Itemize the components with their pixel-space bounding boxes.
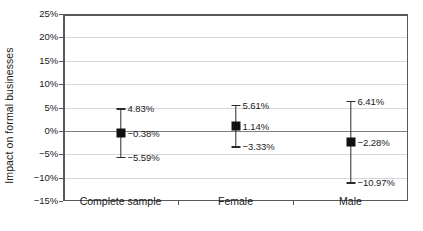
plot-border-top (63, 14, 408, 16)
y-tick-mark (59, 154, 63, 155)
y-tick-label: −5% (18, 148, 58, 159)
y-tick-label: −15% (18, 195, 58, 206)
upper-value-label: 5.61% (243, 99, 270, 110)
point-value-label: −2.28% (358, 136, 390, 147)
y-axis-tick-labels: 25%20%15%10%5%0%−5%−10%−15% (12, 0, 58, 231)
upper-value-label: 4.83% (128, 103, 155, 114)
lower-value-label: −3.33% (243, 141, 275, 152)
gridline--10 (63, 178, 408, 179)
y-tick-label: 20% (18, 31, 58, 42)
error-bar-cap-lower (231, 146, 240, 147)
point-value-label: 1.14% (243, 120, 270, 131)
upper-value-label: 6.41% (358, 95, 385, 106)
gridline-15 (63, 61, 408, 62)
y-tick-label: −10% (18, 172, 58, 183)
y-tick-mark (59, 14, 63, 15)
plot-area: 4.83%−0.38%−5.59%5.61%1.14%−3.33%6.41%−2… (63, 14, 408, 201)
error-bar-cap-upper (231, 105, 240, 106)
x-category-label: Female (218, 195, 253, 207)
error-bar-cap-upper (116, 108, 125, 109)
y-tick-mark (59, 61, 63, 62)
x-category-label: Complete sample (80, 195, 162, 207)
chart-container: Impact on formal businesses 25%20%15%10%… (0, 0, 423, 231)
gridline--5 (63, 154, 408, 155)
y-axis-line (63, 14, 65, 201)
y-tick-mark (59, 178, 63, 179)
x-category-label: Male (339, 195, 362, 207)
y-tick-mark (59, 131, 63, 132)
y-tick-mark (59, 108, 63, 109)
point-value-label: −0.38% (128, 127, 160, 138)
y-tick-label: 25% (18, 8, 58, 19)
plot-border-right (407, 14, 409, 201)
y-tick-label: 15% (18, 55, 58, 66)
y-tick-label: 5% (18, 102, 58, 113)
data-point-marker[interactable] (231, 121, 240, 130)
x-axis-tick (178, 201, 179, 205)
data-point-marker[interactable] (346, 137, 355, 146)
error-bar-cap-upper (346, 101, 355, 102)
y-tick-mark (59, 84, 63, 85)
error-bar-cap-lower (116, 157, 125, 158)
y-tick-mark (59, 37, 63, 38)
y-tick-label: 0% (18, 125, 58, 136)
y-tick-mark (59, 201, 63, 202)
gridline-10 (63, 84, 408, 85)
x-axis-tick (293, 201, 294, 205)
y-tick-label: 10% (18, 78, 58, 89)
error-bar-cap-lower (346, 182, 355, 183)
lower-value-label: −5.59% (128, 152, 160, 163)
data-point-marker[interactable] (116, 128, 125, 137)
lower-value-label: −10.97% (358, 177, 395, 188)
gridline-20 (63, 37, 408, 38)
